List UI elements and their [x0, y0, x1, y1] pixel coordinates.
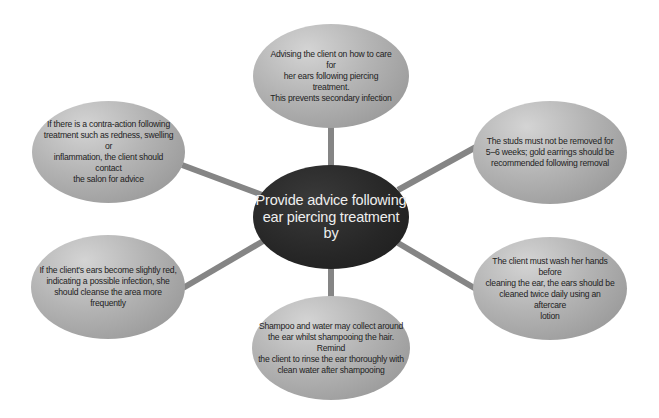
node-upper-right-text: The studs must not be removed for 5–6 we…	[486, 136, 614, 169]
connector-upper-left	[182, 165, 265, 196]
central-topic: Provide advice following ear piercing tr…	[253, 165, 409, 269]
spider-diagram: Advising the client on how to care for h…	[0, 0, 659, 418]
node-lower-right: The client must wash her hands before cl…	[473, 237, 627, 340]
connector-lower-left	[183, 240, 265, 288]
node-top-text: Advising the client on how to care for h…	[267, 49, 395, 104]
connector-upper-right	[398, 147, 476, 190]
node-lower-right-text: The client must wash her hands before cl…	[483, 256, 617, 322]
node-lower-left-text: If the client's ears become slightly red…	[39, 265, 177, 309]
node-upper-right: The studs must not be removed for 5–6 we…	[473, 101, 627, 204]
connector-lower-right	[398, 243, 476, 289]
central-topic-text: Provide advice following ear piercing tr…	[256, 192, 407, 242]
node-bottom-text: Shampoo and water may collect around the…	[258, 321, 404, 376]
node-upper-left: If there is a contra-action following tr…	[32, 101, 185, 203]
node-lower-left: If the client's ears become slightly red…	[31, 235, 185, 339]
node-bottom: Shampoo and water may collect around the…	[252, 296, 410, 400]
node-upper-left-text: If there is a contra-action following tr…	[42, 119, 175, 185]
node-top: Advising the client on how to care for h…	[253, 24, 409, 128]
